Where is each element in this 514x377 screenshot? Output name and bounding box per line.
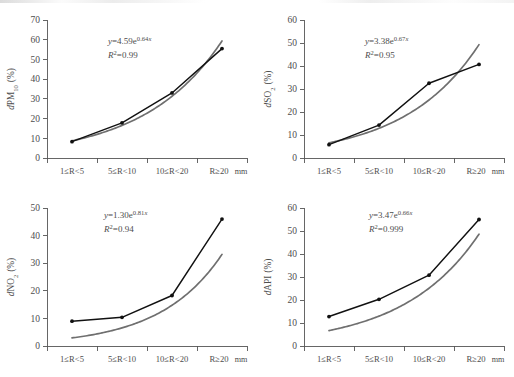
ytick-50: 50 xyxy=(288,38,298,48)
ytick-40: 40 xyxy=(288,249,298,259)
xtick-cat-4: R≥20 xyxy=(209,166,228,176)
y-axis-title-so2: dSO2(%) xyxy=(263,71,276,108)
ytick-40: 40 xyxy=(288,61,298,71)
observed-series-so2 xyxy=(329,64,479,144)
x-unit-label: mm xyxy=(492,167,505,176)
ytick-10: 10 xyxy=(288,130,298,140)
ytick-20: 20 xyxy=(288,107,298,117)
x-axis-api: 1≤R<5 5≤R<10 10≤R<20 R≥20 mm xyxy=(304,346,505,364)
ylabel-subscript: 10 xyxy=(12,84,19,91)
y-axis-title-pm10: dPM10(%) xyxy=(6,68,19,110)
xtick-cat-4: R≥20 xyxy=(466,354,485,364)
x-axis-no2: 1≤R<5 5≤R<10 10≤R<20 R≥20 mm xyxy=(47,346,248,364)
svg-text:dSO2(%): dSO2(%) xyxy=(263,71,276,108)
xtick-cat-2: 5≤R<10 xyxy=(108,354,136,364)
scan-edge-artifact xyxy=(0,0,514,3)
ylabel-unit: (%) xyxy=(263,71,274,85)
panel-api-plot: 0 10 20 30 40 50 60 dAPI(%) 1≤R<5 xyxy=(257,194,514,377)
xtick-cat-3: 10≤R<20 xyxy=(413,354,445,364)
panel-api: 0 10 20 30 40 50 60 dAPI(%) 1≤R<5 xyxy=(257,194,514,377)
r-squared-so2: R2=0.95 xyxy=(364,49,395,61)
y-axis-title-api: dAPI(%) xyxy=(263,259,274,296)
ylabel-unit: (%) xyxy=(263,259,274,273)
eq-exponent: 0.66 xyxy=(398,209,410,216)
eq-coefficient: 3.38 xyxy=(374,36,390,46)
ytick-0: 0 xyxy=(35,153,40,163)
equation-pm10: y=4.59e0.64x xyxy=(107,35,151,47)
fitted-curve-pm10 xyxy=(72,41,222,141)
eq-exponent: 0.67 xyxy=(394,35,406,42)
ytick-60: 60 xyxy=(31,35,41,45)
ytick-10: 10 xyxy=(288,318,298,328)
ytick-30: 30 xyxy=(31,94,41,104)
x-unit-label: mm xyxy=(492,355,505,364)
eq-coefficient: 1.30 xyxy=(113,210,129,220)
y-axis-pm10: 0 10 20 30 40 50 60 70 xyxy=(31,15,48,163)
r2-value: 0.999 xyxy=(383,224,404,234)
annotation-api: y=3.47e0.66x R2=0.999 xyxy=(368,209,412,235)
panel-so2-plot: 0 10 20 30 40 50 60 dSO2(%) 1≤R<5 xyxy=(257,6,514,194)
panel-pm10-plot: 0 10 20 30 40 50 60 70 dPM10(%) xyxy=(0,6,257,194)
y-axis-title-no2: dNO2(%) xyxy=(6,258,19,296)
equation-so2: y=3.38e0.67x xyxy=(364,35,408,47)
ylabel-species: PM xyxy=(6,92,16,105)
x-unit-label: mm xyxy=(235,355,248,364)
ytick-10: 10 xyxy=(31,314,41,324)
xtick-cat-1: 1≤R<5 xyxy=(60,166,84,176)
r2-value: 0.99 xyxy=(122,50,138,60)
ytick-50: 50 xyxy=(288,226,298,236)
fitted-curve-no2 xyxy=(72,254,222,338)
observed-series-api xyxy=(329,220,479,317)
ylabel-unit: (%) xyxy=(6,68,17,82)
panel-so2: 0 10 20 30 40 50 60 dSO2(%) 1≤R<5 xyxy=(257,6,514,194)
figure-container: 0 10 20 30 40 50 60 70 dPM10(%) xyxy=(0,0,514,377)
ytick-70: 70 xyxy=(31,15,41,25)
ytick-30: 30 xyxy=(288,84,298,94)
ylabel-subscript: 2 xyxy=(12,275,19,278)
r2-value: 0.94 xyxy=(118,224,134,234)
observed-series-no2 xyxy=(72,219,222,321)
fitted-curve-api xyxy=(329,234,479,330)
ytick-20: 20 xyxy=(31,114,41,124)
r-squared-no2: R2=0.94 xyxy=(103,223,134,235)
ytick-50: 50 xyxy=(31,203,41,213)
eq-exponent: 0.81 xyxy=(133,209,145,216)
xtick-cat-3: 10≤R<20 xyxy=(156,354,188,364)
svg-text:dAPI(%): dAPI(%) xyxy=(263,259,274,296)
panel-no2: 0 10 20 30 40 50 dNO2(%) 1≤R<5 5≤R xyxy=(0,194,257,377)
annotation-no2: y=1.30e0.81x R2=0.94 xyxy=(103,209,147,235)
xtick-cat-1: 1≤R<5 xyxy=(60,354,84,364)
observed-markers-pm10 xyxy=(70,47,224,144)
panel-no2-plot: 0 10 20 30 40 50 dNO2(%) 1≤R<5 5≤R xyxy=(0,194,257,377)
ylabel-subscript: 2 xyxy=(269,88,276,91)
svg-text:dNO2(%): dNO2(%) xyxy=(6,258,19,296)
y-axis-so2: 0 10 20 30 40 50 60 xyxy=(288,15,305,163)
equation-no2: y=1.30e0.81x xyxy=(103,209,147,221)
annotation-so2: y=3.38e0.67x R2=0.95 xyxy=(364,35,408,61)
panel-pm10: 0 10 20 30 40 50 60 70 dPM10(%) xyxy=(0,6,257,194)
xtick-cat-1: 1≤R<5 xyxy=(317,166,341,176)
ytick-0: 0 xyxy=(292,153,297,163)
y-axis-no2: 0 10 20 30 40 50 xyxy=(31,203,48,351)
xtick-cat-2: 5≤R<10 xyxy=(108,166,136,176)
ytick-40: 40 xyxy=(31,74,41,84)
ylabel-species: NO xyxy=(6,278,16,292)
x-axis-pm10: 1≤R<5 5≤R<10 10≤R<20 R≥20 mm xyxy=(47,158,248,176)
ytick-30: 30 xyxy=(288,272,298,282)
y-axis-api: 0 10 20 30 40 50 60 xyxy=(288,203,305,351)
eq-coefficient: 3.47 xyxy=(378,210,394,220)
eq-coefficient: 4.59 xyxy=(117,36,133,46)
r2-value: 0.95 xyxy=(379,50,395,60)
r-squared-api: R2=0.999 xyxy=(368,223,404,235)
x-unit-label: mm xyxy=(235,167,248,176)
ytick-10: 10 xyxy=(31,134,41,144)
ytick-20: 20 xyxy=(31,286,41,296)
xtick-cat-4: R≥20 xyxy=(466,166,485,176)
x-axis-so2: 1≤R<5 5≤R<10 10≤R<20 R≥20 mm xyxy=(304,158,505,176)
ytick-40: 40 xyxy=(31,231,41,241)
observed-series-pm10 xyxy=(72,49,222,142)
eq-exponent: 0.64 xyxy=(137,35,149,42)
ytick-50: 50 xyxy=(31,55,41,65)
ytick-0: 0 xyxy=(35,341,40,351)
fitted-curve-so2 xyxy=(329,45,479,143)
